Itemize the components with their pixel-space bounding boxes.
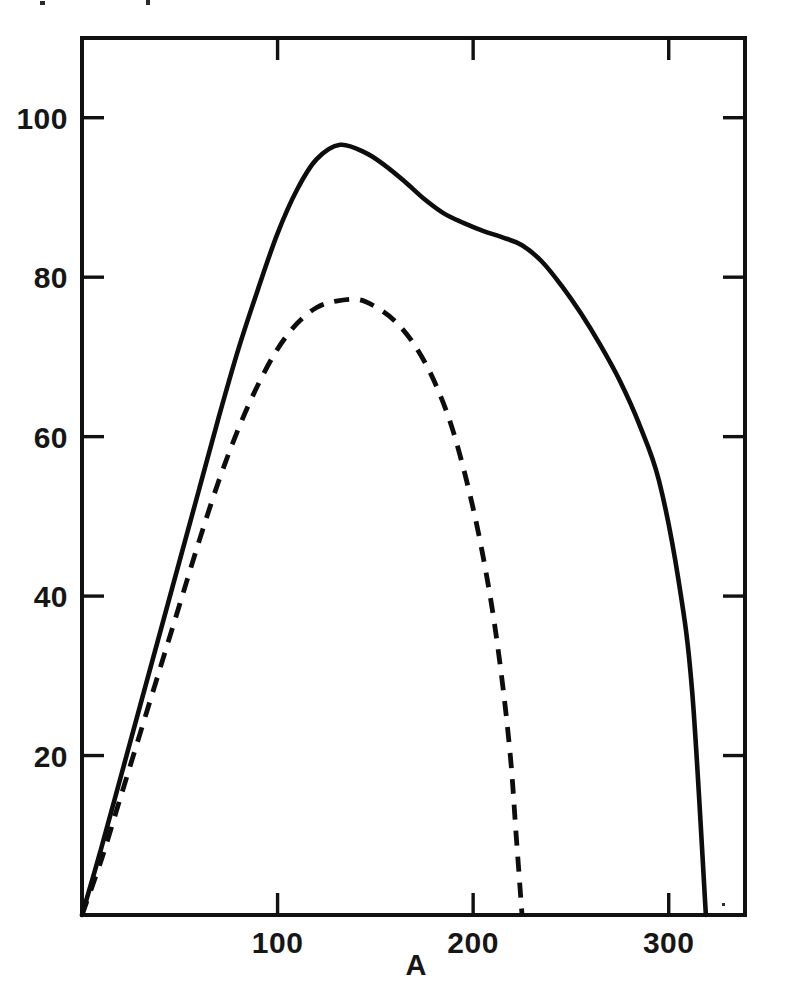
figure-container: 20406080100 100200300 A	[0, 0, 788, 1001]
y-tick-label: 60	[34, 421, 68, 454]
x-axis-title: A	[406, 949, 427, 981]
x-axis-ticks-top	[278, 38, 669, 60]
scan-artifacts	[40, 0, 725, 906]
y-tick-label: 80	[34, 261, 68, 294]
y-axis-ticks-left	[82, 118, 104, 756]
y-axis-tick-labels: 20406080100	[16, 102, 68, 773]
plot-frame	[82, 38, 745, 915]
x-tick-label: 300	[643, 926, 695, 959]
line-chart: 20406080100 100200300 A	[0, 0, 788, 1001]
x-tick-label: 100	[252, 926, 304, 959]
data-curve-solid	[82, 145, 706, 915]
y-tick-label: 100	[16, 102, 68, 135]
x-axis-ticks-bottom	[278, 893, 669, 915]
data-curve-dashed	[82, 299, 522, 915]
y-axis-ticks-right	[723, 118, 745, 756]
y-tick-label: 20	[34, 740, 68, 773]
y-tick-label: 40	[34, 580, 68, 613]
x-axis-tick-labels: 100200300	[252, 926, 695, 959]
x-tick-label: 200	[447, 926, 499, 959]
